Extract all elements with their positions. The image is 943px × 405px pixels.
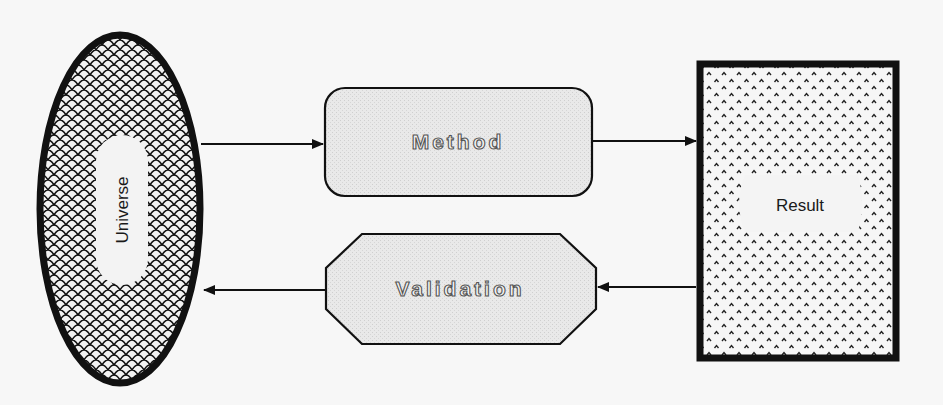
validation-node[interactable]: Validation — [326, 234, 596, 344]
result-node[interactable]: Result — [700, 64, 896, 358]
validation-label: Validation — [395, 277, 524, 300]
flow-diagram: Universe Method Validation Result — [0, 0, 943, 405]
method-node[interactable]: Method — [325, 88, 592, 196]
method-label: Method — [412, 130, 505, 153]
universe-node[interactable]: Universe — [40, 35, 200, 383]
result-label: Result — [776, 196, 824, 215]
universe-label: Universe — [113, 176, 132, 243]
